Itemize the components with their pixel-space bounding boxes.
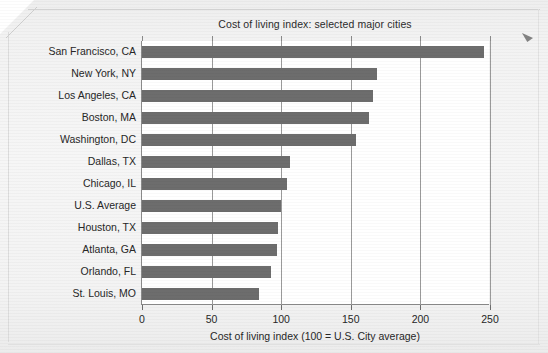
bar (142, 222, 278, 234)
chart-title: Cost of living index: selected major cit… (141, 18, 489, 30)
bar (142, 134, 356, 146)
bar (142, 90, 373, 102)
x-tick-label: 0 (139, 313, 145, 325)
bar (142, 266, 271, 278)
category-label: Chicago, IL (0, 177, 136, 189)
category-label: U.S. Average (0, 199, 136, 211)
tick-top-0 (142, 36, 143, 41)
bar (142, 244, 277, 256)
tick-bottom-0 (142, 305, 143, 310)
category-label: St. Louis, MO (0, 287, 136, 299)
tick-bottom-200 (420, 305, 421, 310)
x-axis-title: Cost of living index (100 = U.S. City av… (141, 330, 489, 342)
tick-top-200 (420, 36, 421, 41)
category-label: New York, NY (0, 67, 136, 79)
plot-area: San Francisco, CANew York, NYLos Angeles… (141, 41, 489, 305)
bar (142, 68, 377, 80)
bar-chart: Cost of living index: selected major cit… (0, 0, 548, 353)
x-tick-label: 250 (481, 313, 499, 325)
category-label: Atlanta, GA (0, 243, 136, 255)
bar (142, 156, 290, 168)
gridline-200 (420, 41, 421, 305)
x-tick-label: 200 (412, 313, 430, 325)
category-label: Boston, MA (0, 111, 136, 123)
gridline-150 (351, 41, 352, 305)
category-label: Dallas, TX (0, 155, 136, 167)
category-label: Orlando, FL (0, 265, 136, 277)
tick-top-50 (212, 36, 213, 41)
x-tick-label: 50 (206, 313, 218, 325)
tick-top-250 (490, 36, 491, 41)
category-label: Los Angeles, CA (0, 89, 136, 101)
bar (142, 46, 484, 58)
x-tick-label: 100 (272, 313, 290, 325)
category-label: Houston, TX (0, 221, 136, 233)
category-label: Washington, DC (0, 133, 136, 145)
tick-bottom-150 (351, 305, 352, 310)
tick-bottom-250 (490, 305, 491, 310)
tick-bottom-50 (212, 305, 213, 310)
bar (142, 200, 281, 212)
tick-top-150 (351, 36, 352, 41)
bar (142, 178, 287, 190)
scanned-page: Cost of living index: selected major cit… (0, 0, 548, 353)
tick-top-100 (281, 36, 282, 41)
category-label: San Francisco, CA (0, 45, 136, 57)
tick-bottom-100 (281, 305, 282, 310)
bar (142, 288, 259, 300)
bar (142, 112, 369, 124)
gridline-250 (490, 41, 491, 305)
gridline-100 (281, 41, 282, 305)
x-tick-label: 150 (342, 313, 360, 325)
